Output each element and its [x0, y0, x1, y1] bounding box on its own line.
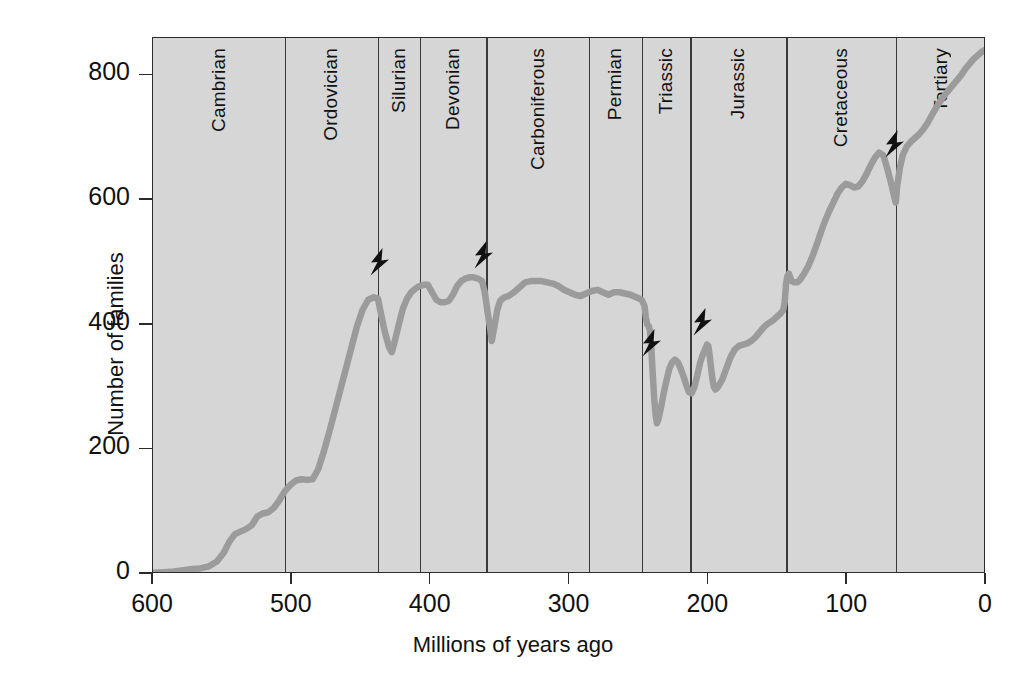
y-tick-200	[139, 448, 152, 450]
x-tick-label-200: 200	[667, 589, 747, 618]
x-tick-label-500: 500	[251, 589, 331, 618]
x-tick-100	[845, 573, 847, 584]
y-tick-label-400: 400	[0, 307, 130, 336]
lightning-bolt-icon	[370, 248, 390, 276]
y-tick-label-0: 0	[0, 556, 130, 585]
lightning-bolt-icon	[885, 130, 905, 158]
x-tick-label-0: 0	[945, 589, 1025, 618]
lightning-bolt-icon	[642, 329, 662, 357]
x-tick-300	[568, 573, 570, 584]
diversity-curve	[153, 38, 985, 573]
x-tick-label-400: 400	[390, 589, 470, 618]
y-tick-400	[139, 323, 152, 325]
x-axis-title: Millions of years ago	[0, 632, 1026, 658]
x-tick-0	[984, 573, 986, 584]
y-axis-title: Number of families	[103, 252, 129, 435]
lightning-bolt-icon	[474, 241, 494, 269]
y-tick-0	[139, 572, 152, 574]
y-tick-label-800: 800	[0, 57, 130, 86]
lightning-bolt-icon	[693, 308, 713, 336]
y-tick-label-200: 200	[0, 431, 130, 460]
x-tick-200	[707, 573, 709, 584]
x-tick-600	[151, 573, 153, 584]
x-tick-label-100: 100	[806, 589, 886, 618]
x-tick-500	[290, 573, 292, 584]
x-tick-label-600: 600	[112, 589, 192, 618]
y-tick-800	[139, 74, 152, 76]
plot-area: CambrianOrdovicianSilurianDevonianCarbon…	[152, 37, 985, 573]
y-tick-600	[139, 198, 152, 200]
series-line	[153, 49, 985, 573]
chart-figure: Number of families 0200400600800 Cambria…	[0, 0, 1026, 688]
x-tick-400	[429, 573, 431, 584]
y-tick-label-600: 600	[0, 182, 130, 211]
x-tick-label-300: 300	[529, 589, 609, 618]
